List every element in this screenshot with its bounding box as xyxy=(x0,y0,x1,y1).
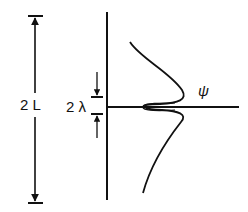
wavefunction-curve xyxy=(130,42,184,193)
diagram-canvas: 2 L 2 λ ψ xyxy=(0,0,248,212)
length-label: 2 L xyxy=(20,96,41,113)
gap-label: 2 λ xyxy=(66,98,87,115)
psi-label: ψ xyxy=(198,82,209,99)
gap-dimension xyxy=(91,72,103,138)
